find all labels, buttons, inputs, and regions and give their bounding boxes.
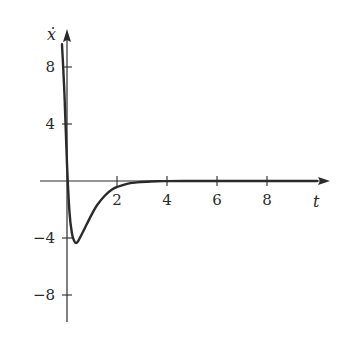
y-tick-label: 8 [45,58,55,76]
data-curve [62,44,317,243]
x-tick-label: 6 [212,191,222,209]
x-axis-label: t [313,192,320,211]
chart: 2468 84−4−8 t ẋ [0,0,347,348]
x-tick-labels: 2468 [112,191,272,209]
x-tick-label: 8 [262,191,272,209]
y-tick-label: −4 [33,229,55,247]
axes [40,36,322,322]
y-tick-label: 4 [45,115,55,133]
y-tick-label: −8 [33,286,55,304]
x-tick-label: 2 [112,191,122,209]
y-axis-label: ẋ [47,25,56,44]
x-tick-label: 4 [162,191,172,209]
